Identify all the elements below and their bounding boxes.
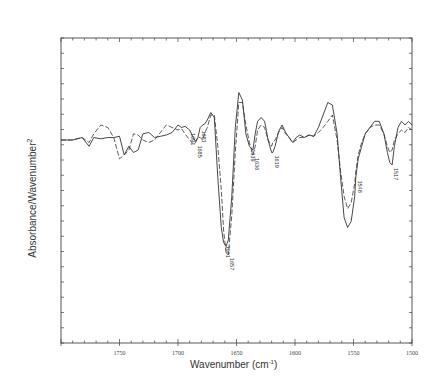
x-tick-label: 1700 (172, 350, 184, 356)
dashed-spectrum-line (61, 103, 412, 256)
peak-label: 1657 (229, 258, 235, 270)
x-tick-label: 1550 (348, 350, 360, 356)
peak-label: 1691 (190, 133, 196, 145)
x-axis-label: Wavenumber (cm-1) (190, 359, 277, 370)
peak-label: 1517 (393, 168, 399, 180)
peak-label: 1636 (254, 158, 260, 170)
peak-label: 1619 (274, 156, 280, 168)
peak-label: 1681 (201, 131, 207, 143)
x-tick-label: 1750 (114, 350, 126, 356)
peak-label: 1661 (225, 246, 231, 258)
x-tick-label: 1600 (289, 350, 301, 356)
peak-label: 1548 (357, 181, 363, 193)
solid-spectrum-line (61, 93, 412, 247)
x-tick-labels: 175017001650160015501500 (114, 350, 419, 356)
peak-annotations: 1691168516811661165716391636161915481517 (190, 131, 400, 271)
y-axis-label: Absorbance/Wavenumber2 (26, 118, 38, 278)
peak-label: 1685 (197, 146, 203, 158)
spectrum-chart: 175017001650160015501500 169116851681166… (0, 0, 443, 389)
x-tick-label: 1650 (231, 350, 243, 356)
series-layer (61, 93, 412, 256)
x-tick-label: 1500 (406, 350, 418, 356)
